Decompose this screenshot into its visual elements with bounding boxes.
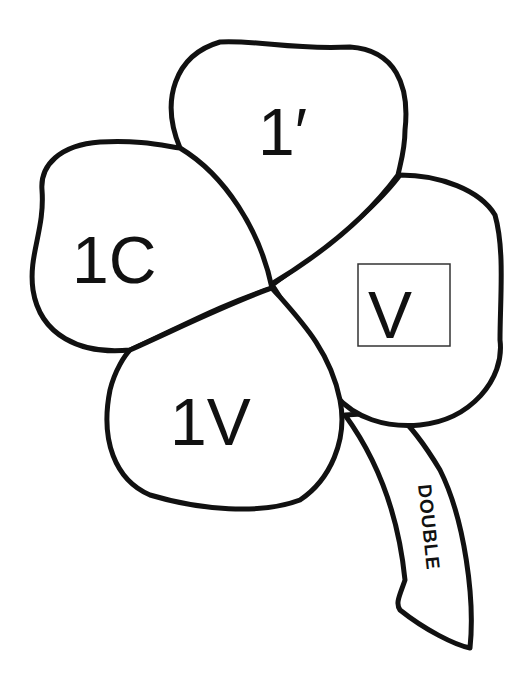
leaf-bottom-label: 1V [170, 385, 251, 459]
leaf-top-label: 1′ [258, 95, 307, 169]
leaf-left-label: 1C [72, 223, 156, 297]
leaf-right-label: V [368, 278, 412, 352]
stem [345, 412, 471, 648]
clover-diagram: 1′ 1C V 1V DOUBLE [0, 0, 530, 681]
